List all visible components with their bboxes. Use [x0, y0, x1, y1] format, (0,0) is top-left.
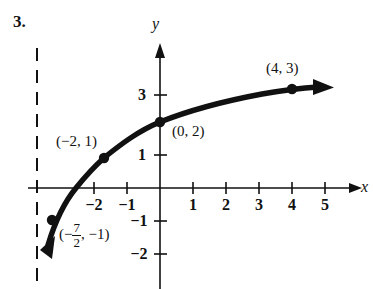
y-axis [154, 43, 167, 289]
x-tick-label-5: 5 [314, 196, 336, 214]
point-label-0-2: (0, 2) [172, 123, 205, 140]
x-tick-label-1: 1 [182, 196, 204, 214]
fraction-denominator: 2 [72, 236, 81, 250]
point-label-neg2-1: (−2, 1) [56, 133, 97, 150]
x-tick-label-3: 3 [248, 196, 270, 214]
x-tick-label-2: 2 [215, 196, 237, 214]
point-neg2-1 [99, 153, 109, 163]
y-tick-label-neg2: −2 [128, 245, 150, 263]
paren-close-text: , −1) [81, 226, 109, 242]
paren-open-text: (− [59, 226, 72, 242]
point-neg7over2-neg1 [47, 215, 57, 225]
fraction-numerator: 7 [72, 221, 81, 236]
point-label-4-3: (4, 3) [266, 60, 299, 77]
point-0-2 [155, 117, 165, 127]
point-4-3 [287, 84, 297, 94]
x-tick-label-4: 4 [281, 196, 303, 214]
x-axis-label: x [361, 178, 368, 196]
y-axis-label: y [152, 15, 159, 33]
y-tick-label-3: 3 [131, 86, 153, 104]
fraction-seven-halves: 72 [72, 221, 81, 249]
x-tick-label-neg2: −2 [83, 196, 105, 214]
point-label-neg7over2-neg1: (−72, −1) [59, 222, 109, 250]
y-tick-label-1: 1 [131, 146, 153, 164]
y-tick-label-neg1: −1 [128, 212, 150, 230]
problem-number: 3. [13, 12, 26, 32]
